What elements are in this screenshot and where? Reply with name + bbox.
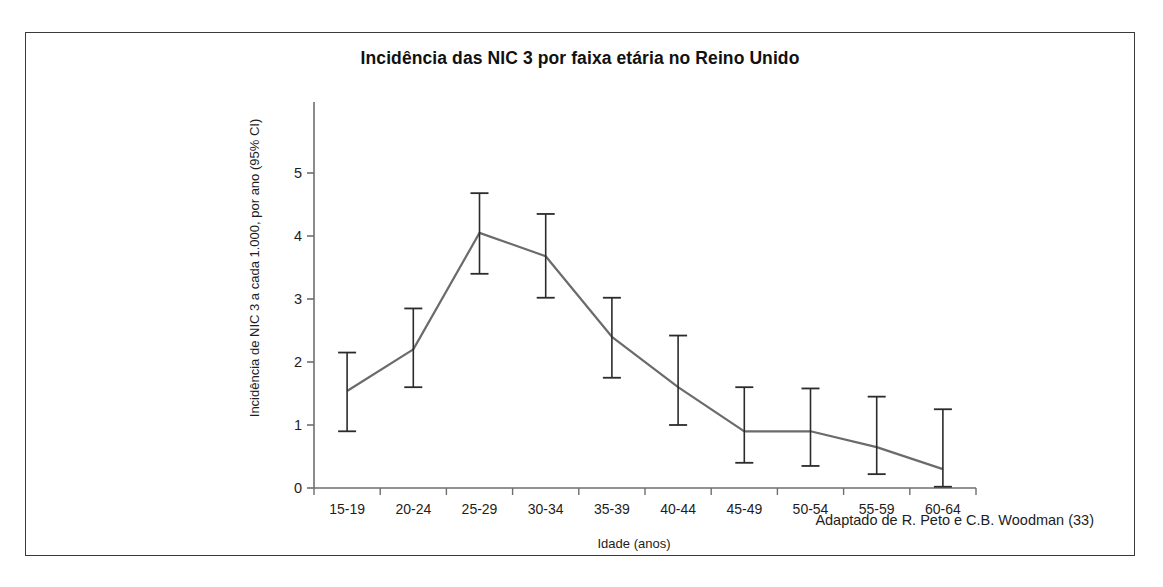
svg-text:0: 0: [294, 480, 302, 496]
svg-text:5: 5: [294, 165, 302, 181]
svg-text:25-29: 25-29: [462, 501, 498, 517]
svg-text:30-34: 30-34: [528, 501, 564, 517]
svg-text:40-44: 40-44: [660, 501, 696, 517]
chart-title: Incidência das NIC 3 por faixa etária no…: [26, 48, 1134, 69]
plot-area: Incidência de NIC 3 a cada 1.000, por an…: [289, 88, 979, 513]
source-note: Adaptado de R. Peto e C.B. Woodman (33): [815, 512, 1094, 528]
svg-text:2: 2: [294, 354, 302, 370]
svg-text:4: 4: [294, 228, 302, 244]
svg-text:45-49: 45-49: [726, 501, 762, 517]
y-axis-title: Incidência de NIC 3 a cada 1.000, por an…: [244, 88, 266, 448]
svg-text:35-39: 35-39: [594, 501, 630, 517]
chart-svg: 01234515-1920-2425-2930-3435-3940-4445-4…: [289, 88, 979, 533]
svg-text:20-24: 20-24: [395, 501, 431, 517]
svg-text:15-19: 15-19: [329, 501, 365, 517]
svg-text:1: 1: [294, 417, 302, 433]
x-axis-title: Idade (anos): [289, 536, 979, 551]
figure-root: Incidência das NIC 3 por faixa etária no…: [0, 0, 1163, 587]
figure-frame: Incidência das NIC 3 por faixa etária no…: [25, 32, 1135, 556]
svg-text:3: 3: [294, 291, 302, 307]
